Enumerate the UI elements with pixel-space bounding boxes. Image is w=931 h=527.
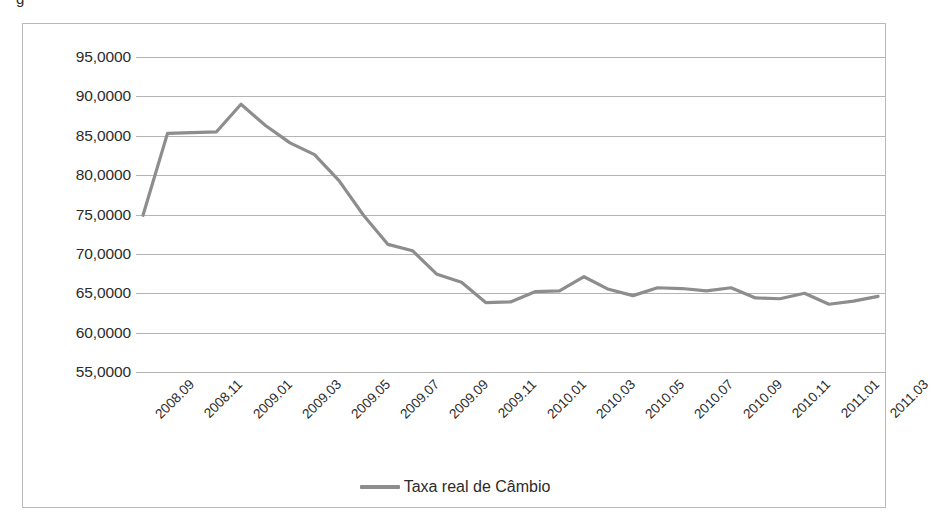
x-axis-tick-label: 2010.07 — [691, 377, 736, 422]
x-axis-tick-label: 2009.03 — [299, 377, 344, 422]
x-axis-tick-label: 2009.07 — [397, 377, 442, 422]
y-axis-tick-label: 95,0000 — [35, 49, 131, 65]
series-layer — [136, 57, 885, 372]
x-axis-tick-label: 2009.01 — [250, 377, 295, 422]
x-axis-tick-label: 2009.09 — [446, 377, 491, 422]
legend-label: Taxa real de Câmbio — [404, 479, 551, 495]
y-axis-tick-label: 55,0000 — [35, 364, 131, 380]
x-axis-tick-label: 2010.01 — [544, 377, 589, 422]
x-axis-tick-label: 2010.11 — [789, 377, 833, 421]
x-axis: 2008.092008.112009.012009.032009.052009.… — [136, 374, 885, 484]
x-axis-tick-label: 2008.09 — [152, 377, 197, 422]
y-axis-tick-label: 85,0000 — [35, 128, 131, 144]
gridline — [136, 372, 885, 373]
y-axis-tick-label: 60,0000 — [35, 325, 131, 341]
y-axis-tick-label: 90,0000 — [35, 89, 131, 105]
x-axis-tick-label: 2011.03 — [887, 377, 931, 421]
legend: Taxa real de Câmbio — [23, 479, 887, 495]
series-line — [143, 104, 878, 304]
y-axis-tick-label: 70,0000 — [35, 246, 131, 262]
y-axis-tick-label: 75,0000 — [35, 207, 131, 223]
chart-frame: 55,000060,000065,000070,000075,000080,00… — [22, 23, 886, 508]
x-axis-tick-label: 2009.11 — [495, 377, 539, 421]
x-axis-tick-label: 2011.01 — [838, 377, 882, 421]
legend-item[interactable]: Taxa real de Câmbio — [360, 479, 551, 495]
x-axis-tick-label: 2010.05 — [642, 377, 687, 422]
y-axis-tick-label: 65,0000 — [35, 286, 131, 302]
x-axis-tick-label: 2008.11 — [201, 377, 245, 421]
x-axis-tick-label: 2010.03 — [593, 377, 638, 422]
x-axis-tick-label: 2009.05 — [348, 377, 393, 422]
y-axis: 55,000060,000065,000070,000075,000080,00… — [31, 57, 131, 372]
legend-line-icon — [360, 485, 400, 489]
clipped-caption-glyph: g — [16, 0, 32, 7]
x-axis-tick-label: 2010.09 — [740, 377, 785, 422]
y-axis-tick-label: 80,0000 — [35, 167, 131, 183]
